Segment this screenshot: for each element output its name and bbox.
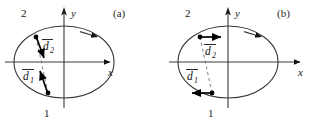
- figure-svg: y x 2 1 d 2 d 1 (a): [0, 0, 319, 120]
- panel-a-caption: (a): [113, 7, 126, 20]
- panel-a-point-2-label: 2: [21, 7, 27, 19]
- panel-a-y-axis-label: y: [70, 7, 76, 19]
- panel-a-vector-d1-label-text: d: [23, 70, 29, 82]
- panel-b: y x 2 1 d 2 d 1 (b): [169, 7, 303, 119]
- panel-a-vector-d2-label-text: d: [43, 40, 49, 52]
- panel-b-vector-d2-label-text: d: [205, 45, 211, 57]
- panel-a-y-axis: [61, 7, 67, 108]
- panel-b-y-axis-label: y: [234, 7, 240, 19]
- panel-a-vector-d1-label-sub: 1: [30, 76, 34, 85]
- panel-b-caption: (b): [277, 7, 290, 20]
- panel-b-x-axis-label: x: [297, 66, 303, 78]
- panel-a-vector-d2-label-sub: 2: [50, 46, 54, 55]
- panel-b-point-1-label: 1: [208, 107, 214, 119]
- panel-a: y x 2 1 d 2 d 1 (a): [5, 7, 126, 119]
- panel-a-vector-d2-label: d 2: [42, 40, 54, 56]
- panel-a-vector-d1-label: d 1: [22, 70, 34, 86]
- panel-b-vector-d2-label-sub: 2: [212, 51, 216, 60]
- panel-b-y-axis: [225, 7, 231, 108]
- panel-b-vector-d2-label: d 2: [204, 45, 216, 61]
- panel-b-vector-d1-label: d 1: [186, 70, 198, 86]
- panel-b-vector-d1-label-text: d: [187, 70, 193, 82]
- figure-container: y x 2 1 d 2 d 1 (a): [0, 0, 319, 120]
- panel-b-vector-d1-label-sub: 1: [194, 76, 198, 85]
- panel-b-point-2-label: 2: [185, 7, 191, 19]
- panel-a-point-1-label: 1: [44, 107, 50, 119]
